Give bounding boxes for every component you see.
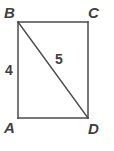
diagonal-BD-line (18, 22, 88, 118)
vertex-label-a: A (4, 120, 15, 135)
vertex-label-d: D (88, 121, 99, 136)
vertex-label-b: B (4, 5, 15, 20)
geometry-figure: B C D A 4 5 (0, 0, 114, 151)
measure-label-diagonal-bd: 5 (55, 52, 63, 66)
measure-label-side-ab: 4 (5, 63, 13, 77)
vertex-label-c: C (88, 5, 99, 20)
